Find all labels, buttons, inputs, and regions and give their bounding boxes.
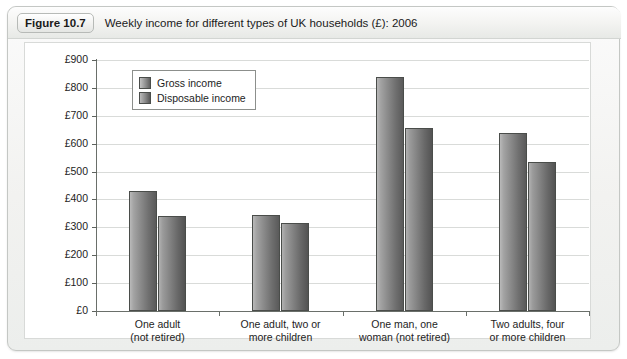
chart-legend: Gross income Disposable income (132, 70, 256, 110)
chart-plot-panel (24, 42, 591, 339)
legend-item-disposable-income: Disposable income (139, 90, 246, 105)
legend-label-gross: Gross income (157, 77, 222, 89)
legend-label-disposable: Disposable income (157, 92, 246, 104)
figure-number-tag: Figure 10.7 (17, 13, 94, 33)
legend-swatch-icon-disposable (139, 92, 151, 104)
legend-swatch-icon-gross (139, 77, 151, 89)
figure-caption-bar: Figure 10.7 Weekly income for different … (8, 7, 621, 39)
figure-caption-text: Weekly income for different types of UK … (105, 17, 418, 29)
legend-item-gross-income: Gross income (139, 75, 246, 90)
